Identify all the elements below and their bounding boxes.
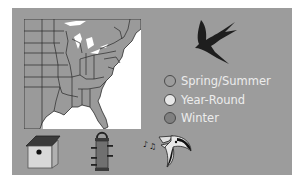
swallow-icon <box>193 18 239 66</box>
svg-text:♪: ♪ <box>143 140 148 149</box>
legend-item-winter: Winter <box>164 109 271 128</box>
legend-label: Winter <box>181 111 219 125</box>
us-east-map-icon <box>24 19 141 129</box>
year-round-swatch-icon <box>164 94 176 106</box>
birdhouse-icon <box>24 134 62 170</box>
svg-text:♫: ♫ <box>149 142 156 151</box>
legend-item-spring-summer: Spring/Summer <box>164 72 271 91</box>
legend-label: Year-Round <box>181 93 245 107</box>
legend-item-year-round: Year-Round <box>164 91 271 110</box>
tube-feeder-icon <box>89 130 115 172</box>
winter-swatch-icon <box>164 112 176 124</box>
legend-label: Spring/Summer <box>181 74 271 88</box>
range-map <box>24 19 141 129</box>
season-legend: Spring/Summer Year-Round Winter <box>164 72 271 128</box>
singing-bird-icon: ♪ ♫ <box>143 133 197 169</box>
spring-summer-swatch-icon <box>164 75 176 87</box>
